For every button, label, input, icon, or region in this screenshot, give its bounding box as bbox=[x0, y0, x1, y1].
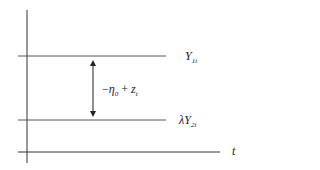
label-sub: 2t bbox=[191, 121, 196, 129]
z-subscript: t bbox=[136, 90, 138, 98]
plus-sign: + bbox=[118, 82, 131, 96]
lower-line-label: λY2t bbox=[179, 114, 196, 129]
label-y: Y bbox=[184, 113, 191, 127]
time-axis-label: t bbox=[232, 145, 235, 157]
upper-line-label: Y1t bbox=[185, 50, 197, 65]
label-sub: 1t bbox=[192, 57, 197, 65]
minus-sign: − bbox=[102, 82, 109, 96]
gap-label: −η0 + zt bbox=[102, 83, 138, 98]
label-y: Y bbox=[185, 49, 192, 63]
